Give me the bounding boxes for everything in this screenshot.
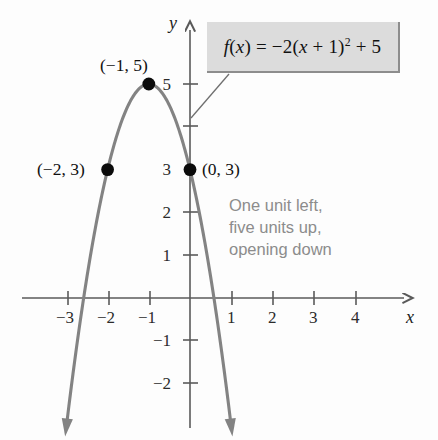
point-left: [101, 163, 114, 176]
point-label-left: (−2, 3): [37, 161, 85, 179]
x-tick-label-neg2: −2: [97, 309, 115, 326]
formula-inner-var: x: [299, 36, 308, 57]
y-tick-label-neg1: −1: [143, 332, 171, 349]
point-label-vertex: (−1, 5): [100, 57, 148, 75]
callout-leader-line: [191, 74, 229, 118]
x-tick-label-2: 2: [268, 309, 277, 326]
curve-arrowhead-left: [62, 418, 73, 437]
transformation-note-line3: opening down: [229, 238, 332, 260]
y-tick-label-3: 3: [150, 161, 171, 178]
point-label-y-intercept: (0, 3): [202, 161, 240, 179]
curve-arrowhead-right: [225, 418, 236, 437]
y-tick-label-neg2: −2: [143, 375, 171, 392]
transformation-note-line1: One unit left,: [229, 194, 332, 216]
formula-inner-rest: + 1): [308, 36, 345, 57]
x-tick-label-1: 1: [227, 309, 236, 326]
formula-tail: + 5: [351, 36, 382, 57]
formula-coefficient: −2(: [272, 36, 299, 57]
y-tick-label-1: 1: [150, 247, 171, 264]
formula-callout-box: f(x) = −2(x + 1)2 + 5: [207, 22, 400, 73]
x-axis-label: x: [406, 308, 414, 326]
y-axis-label: y: [169, 14, 177, 32]
y-tick-label-2: 2: [150, 204, 171, 221]
x-tick-label-neg1: −1: [138, 309, 156, 326]
formula-equals: =: [251, 36, 272, 57]
x-tick-label-3: 3: [309, 309, 318, 326]
parabola-curve: [67, 84, 230, 420]
formula-text: f(x) = −2(x + 1)2 + 5: [224, 36, 381, 58]
point-y-intercept: [184, 163, 197, 176]
transformation-note: One unit left, five units up, opening do…: [229, 194, 332, 260]
transformation-note-line2: five units up,: [229, 216, 332, 238]
y-tick-label-5: 5: [150, 76, 171, 93]
x-tick-label-neg3: −3: [56, 309, 74, 326]
figure-canvas: f(x) = −2(x + 1)2 + 5 y x −3 −2 −1 1 2 3…: [0, 0, 438, 440]
x-tick-label-4: 4: [351, 309, 360, 326]
